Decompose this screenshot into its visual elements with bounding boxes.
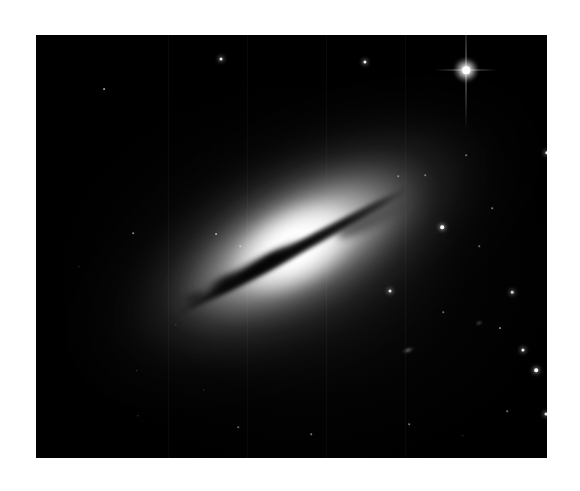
astronomical-image-plate (36, 35, 547, 458)
image-canvas (0, 0, 580, 491)
sky-gradient-wash (36, 35, 547, 458)
